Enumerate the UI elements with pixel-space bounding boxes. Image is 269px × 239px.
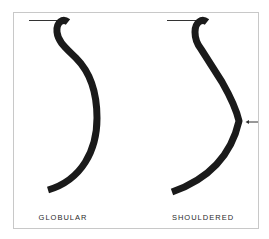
shouldered-label: SHOULDERED [172, 213, 234, 222]
globular-profile [29, 20, 97, 190]
arrow-left-icon [246, 120, 259, 124]
profiles-canvas [0, 0, 269, 239]
globular-wall-icon [48, 20, 97, 190]
shouldered-profile [167, 20, 258, 192]
shouldered-wall-icon [172, 20, 239, 192]
globular-label: GLOBULAR [39, 213, 88, 222]
